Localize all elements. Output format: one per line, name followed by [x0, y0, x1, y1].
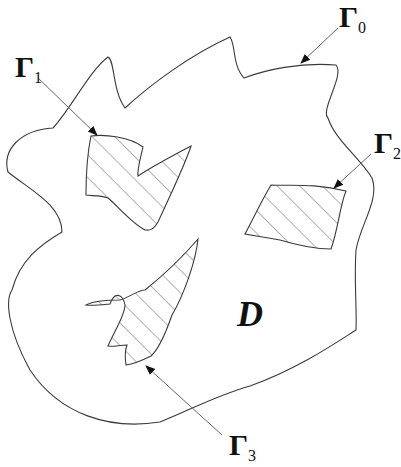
domain-label: D — [236, 294, 263, 334]
pointer-gamma-0 — [301, 28, 338, 63]
pointer-gamma-2 — [334, 154, 371, 188]
pointer-gamma-1 — [38, 78, 97, 135]
label-gamma-0: Γ0 — [339, 0, 366, 36]
hole-3 — [86, 239, 198, 365]
hole-1 — [86, 135, 191, 230]
domain-diagram: Γ0 Γ1 Γ2 Γ3 D — [0, 0, 401, 467]
label-gamma-2: Γ2 — [374, 126, 401, 162]
label-gamma-1: Γ1 — [15, 50, 42, 86]
label-gamma-3: Γ3 — [229, 428, 256, 464]
hole-2 — [245, 185, 346, 249]
